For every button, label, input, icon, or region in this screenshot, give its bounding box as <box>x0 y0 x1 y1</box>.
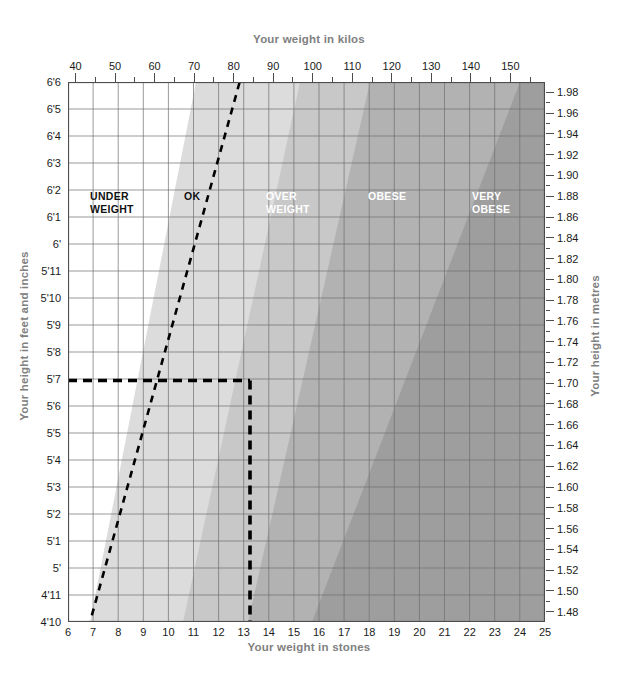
tickmark-metres-minor <box>546 580 550 581</box>
tickmark-kilos-130 <box>431 73 432 82</box>
tick-feet-5-11: 5'11 <box>41 265 61 277</box>
tickmark-metres-1.74 <box>546 341 554 342</box>
tick-kilos-130: 130 <box>422 60 440 72</box>
tick-kilos-50: 50 <box>109 60 121 72</box>
tick-metres-1.56: 1.56 <box>557 523 578 535</box>
bmi-bands-svg <box>68 82 545 622</box>
tick-stones-18: 18 <box>363 626 375 638</box>
tick-stones-9: 9 <box>140 626 146 638</box>
tickmark-metres-minor <box>546 102 550 103</box>
tickmark-metres-minor <box>546 393 550 394</box>
tickmark-metres-1.96 <box>546 113 554 114</box>
tickmark-kilos-70 <box>194 73 195 82</box>
tickmark-metres-minor <box>546 227 550 228</box>
tick-feet-6-4: 6'4 <box>47 130 61 142</box>
tickmark-metres-1.80 <box>546 279 554 280</box>
tickmark-metres-1.72 <box>546 362 554 363</box>
tick-stones-8: 8 <box>115 626 121 638</box>
tick-feet-5-10: 5'10 <box>41 292 61 304</box>
tick-metres-1.70: 1.70 <box>557 377 578 389</box>
tickmark-metres-minor <box>546 165 550 166</box>
tickmark-metres-1.58 <box>546 507 554 508</box>
tick-stones-19: 19 <box>388 626 400 638</box>
tickmark-metres-minor <box>546 559 550 560</box>
tickmark-metres-minor <box>546 310 550 311</box>
tickmark-metres-1.66 <box>546 424 554 425</box>
tick-feet-5-2: 5'2 <box>47 508 61 520</box>
tickmark-metres-minor <box>546 435 550 436</box>
tick-stones-25: 25 <box>539 626 551 638</box>
tick-kilos-80: 80 <box>228 60 240 72</box>
tickmark-metres-1.82 <box>546 258 554 259</box>
tickmark-kilos-140 <box>470 73 471 82</box>
tick-feet-6-2: 6'2 <box>47 184 61 196</box>
tickmark-metres-minor <box>546 414 550 415</box>
tickmark-metres-minor <box>546 497 550 498</box>
tickmark-metres-1.52 <box>546 570 554 571</box>
tick-metres-1.90: 1.90 <box>557 169 578 181</box>
tickmark-metres-1.60 <box>546 487 554 488</box>
tick-metres-1.98: 1.98 <box>557 86 578 98</box>
band-label-under-weight: UNDER WEIGHT <box>90 190 134 216</box>
tick-feet-5-7: 5'7 <box>47 373 61 385</box>
tick-kilos-110: 110 <box>343 60 361 72</box>
tickmark-kilos-100 <box>312 73 313 82</box>
tickmark-metres-1.90 <box>546 175 554 176</box>
tick-metres-1.52: 1.52 <box>557 564 578 576</box>
tickmark-metres-minor <box>546 268 550 269</box>
tickmark-kilos-60 <box>154 73 155 82</box>
tick-feet-6-5: 6'5 <box>47 103 61 115</box>
tick-metres-1.66: 1.66 <box>557 419 578 431</box>
tick-stones-23: 23 <box>489 626 501 638</box>
tickmark-metres-minor <box>546 144 550 145</box>
tick-metres-1.84: 1.84 <box>557 232 578 244</box>
tick-stones-6: 6 <box>65 626 71 638</box>
tick-stones-11: 11 <box>188 626 199 638</box>
tick-kilos-120: 120 <box>383 60 401 72</box>
tick-stones-12: 12 <box>213 626 225 638</box>
tick-metres-1.74: 1.74 <box>557 336 578 348</box>
tick-stones-24: 24 <box>514 626 526 638</box>
tickmark-metres-1.76 <box>546 320 554 321</box>
tick-feet-5-9: 5'9 <box>47 319 61 331</box>
tick-feet-4-11: 4'11 <box>41 589 61 601</box>
tick-metres-1.58: 1.58 <box>557 502 578 514</box>
tickmark-metres-1.56 <box>546 528 554 529</box>
tick-metres-1.50: 1.50 <box>557 585 578 597</box>
tickmark-metres-1.50 <box>546 590 554 591</box>
tick-feet-5-4: 5'4 <box>47 454 61 466</box>
tickmark-kilos-90 <box>273 73 274 82</box>
band-label-over-weight: OVER WEIGHT <box>266 190 310 216</box>
tickmark-metres-minor <box>546 352 550 353</box>
tickmark-metres-minor <box>546 123 550 124</box>
tick-metres-1.80: 1.80 <box>557 273 578 285</box>
tickmark-metres-1.88 <box>546 196 554 197</box>
band-label-ok: OK <box>184 190 200 203</box>
tick-feet-5-: 5' <box>53 562 61 574</box>
tickmark-metres-1.86 <box>546 217 554 218</box>
tickmark-metres-1.94 <box>546 133 554 134</box>
tickmark-metres-1.54 <box>546 549 554 550</box>
tick-metres-1.76: 1.76 <box>557 315 578 327</box>
tick-metres-1.88: 1.88 <box>557 190 578 202</box>
left-axis-title: Your height in feet and inches <box>18 236 30 436</box>
tick-metres-1.94: 1.94 <box>557 128 578 140</box>
tick-feet-6-: 6' <box>53 238 61 250</box>
tick-metres-1.64: 1.64 <box>557 439 578 451</box>
tickmark-metres-minor <box>546 248 550 249</box>
tickmark-kilos-120 <box>391 73 392 82</box>
top-axis-title: Your weight in kilos <box>0 33 618 45</box>
tick-kilos-90: 90 <box>267 60 279 72</box>
tickmark-metres-minor <box>546 518 550 519</box>
tickmark-metres-minor <box>546 185 550 186</box>
tickmark-kilos-40 <box>75 73 76 82</box>
tickmark-metres-1.70 <box>546 383 554 384</box>
tick-metres-1.62: 1.62 <box>557 460 578 472</box>
tick-kilos-150: 150 <box>501 60 519 72</box>
tick-metres-1.92: 1.92 <box>557 149 578 161</box>
tick-stones-20: 20 <box>413 626 425 638</box>
bottom-axis-title: Your weight in stones <box>0 641 618 653</box>
tick-kilos-100: 100 <box>304 60 322 72</box>
tickmark-metres-1.98 <box>546 92 554 93</box>
tickmark-metres-1.48 <box>546 611 554 612</box>
